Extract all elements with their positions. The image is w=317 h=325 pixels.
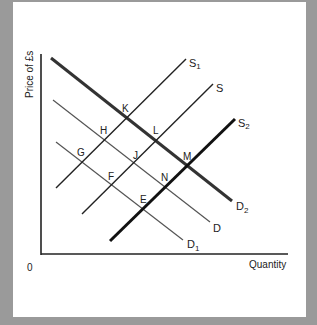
label-d2: D2 [236, 200, 249, 215]
demand-curve-d2 [51, 58, 232, 201]
point-n: N [161, 172, 168, 183]
point-f: F [108, 171, 114, 182]
demand-curve-d1 [56, 142, 183, 240]
supply-demand-diagram: S1 S S2 D2 D D1 K H L G J M F N E Price … [0, 0, 317, 325]
label-s2: S2 [238, 117, 250, 131]
label-s1: S1 [189, 57, 201, 71]
supply-curve-s [82, 84, 213, 214]
point-l: L [153, 125, 159, 136]
label-s: S [216, 82, 223, 94]
x-axis-label: Quantity [249, 259, 286, 270]
label-d1: D1 [187, 238, 200, 253]
y-axis-label: Price of £s [24, 51, 35, 98]
point-j: J [133, 150, 138, 161]
point-k: K [122, 103, 129, 114]
point-e: E [140, 194, 147, 205]
point-m: M [183, 151, 191, 162]
point-g: G [77, 147, 85, 158]
label-d: D [213, 222, 221, 234]
point-h: H [100, 125, 107, 136]
origin-label: 0 [27, 262, 33, 273]
